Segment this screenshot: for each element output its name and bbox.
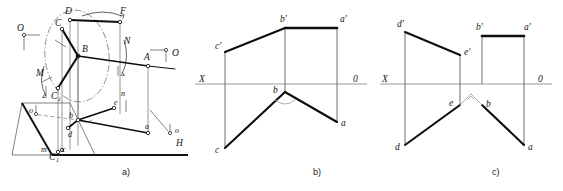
label-e: e (449, 98, 453, 108)
segment-b-a (482, 105, 524, 145)
label-e-prime: e′ (464, 47, 471, 57)
tick-mark-upper (55, 40, 66, 47)
label-a: a (528, 142, 533, 152)
label-H: H (175, 138, 184, 148)
edge-B-A (78, 56, 148, 66)
plane-h-left-edge (22, 103, 52, 155)
segment-e-apex-left (460, 94, 471, 105)
label-b: b (273, 85, 278, 95)
caption-a: a) (122, 167, 130, 177)
panel-b-drawing: X 0 c′ b′ a′ b a c (185, 0, 375, 191)
segment-dprime-eprime (405, 32, 460, 55)
label-c-prime: c′ (215, 41, 222, 51)
node-B (76, 54, 80, 58)
frontal-projection (225, 28, 337, 52)
horizontal-projection (225, 92, 337, 148)
axis-right-node (164, 48, 167, 51)
edge-b-e (78, 108, 114, 120)
label-X: X (198, 74, 206, 84)
label-O-left: O (17, 23, 24, 33)
label-B: B (82, 44, 88, 54)
label-e: e (114, 98, 118, 107)
label-o-lower-right: o (175, 126, 179, 135)
label-O: 0 (538, 74, 543, 84)
edge-A-O (148, 66, 175, 69)
node-C1-lower (56, 150, 59, 153)
label-b-prime: b′ (476, 22, 484, 32)
label-a-prime: a′ (340, 14, 348, 24)
node-b (76, 118, 79, 121)
label-X: X (381, 74, 389, 84)
solid-figure-lines (58, 20, 175, 133)
node-A (146, 64, 149, 67)
plane-h-right-edge (150, 110, 168, 131)
segment-b-a (285, 92, 337, 122)
node-C1-upper (56, 86, 59, 89)
label-O-right: O (172, 48, 179, 58)
label-A: A (143, 52, 150, 62)
axis-o-lower-left-node (34, 112, 37, 115)
label-b: b (486, 99, 491, 109)
label-a: a (145, 122, 149, 131)
label-c: c (215, 145, 220, 155)
label-o-left: o (29, 106, 33, 115)
label-d: d (68, 130, 73, 139)
label-d-prime: d′ (397, 19, 405, 29)
edge-D-F (70, 20, 120, 22)
label-C1-upper-group: C 1 (51, 91, 61, 102)
label-c-lower: c (62, 145, 66, 154)
panel-a-drawing: O O o o C D F B N M A C 1 C 1 c d b e n … (0, 0, 190, 191)
label-m: m (41, 145, 47, 154)
plane-h-upper-edges (12, 103, 95, 155)
segment-cprime-bprime (225, 28, 285, 52)
node-D (68, 18, 71, 21)
segment-d-e (405, 105, 460, 145)
label-b: b (69, 111, 73, 120)
node-a (146, 131, 149, 134)
axis-o-lower-right-node (168, 131, 171, 134)
label-O: 0 (353, 74, 358, 84)
label-N: N (123, 36, 131, 46)
label-D: D (64, 6, 72, 16)
label-F: F (119, 6, 126, 16)
label-C1-lower-sub: 1 (56, 157, 59, 163)
horizontal-projection (405, 94, 524, 145)
label-a: a (341, 118, 346, 128)
angle-marker-b (275, 100, 295, 104)
panel-c-epure: X 0 d′ e′ b′ a′ e b d a (372, 0, 563, 191)
horizontal-plane-h (12, 103, 188, 155)
axis-left-node (22, 33, 25, 36)
arc-arrow-top (82, 12, 122, 16)
label-C1-upper-sub: 1 (58, 96, 61, 102)
edge-B-C1 (58, 56, 78, 88)
label-b-prime: b′ (280, 14, 288, 24)
node-F (118, 20, 121, 23)
label-d: d (395, 142, 400, 152)
panel-a-pictorial: O O o o C D F B N M A C 1 C 1 c d b e n … (0, 0, 190, 191)
label-C1-upper: C (51, 91, 58, 101)
label-C-upper: C (55, 18, 62, 28)
figure-root: O O o o C D F B N M A C 1 C 1 c d b e n … (0, 0, 563, 191)
label-C1-lower: C (49, 152, 56, 162)
panel-b-epure: X 0 c′ b′ a′ b a c (185, 0, 375, 191)
caption-b: b) (313, 167, 321, 177)
label-a-prime: a′ (524, 22, 532, 32)
label-M: M (35, 68, 45, 78)
panel-c-drawing: X 0 d′ e′ b′ a′ e b d a (372, 0, 563, 191)
edge-b-a (78, 120, 148, 133)
caption-c: c) (492, 167, 500, 177)
segment-apex-b-right (471, 94, 482, 105)
label-n: n (121, 89, 125, 98)
